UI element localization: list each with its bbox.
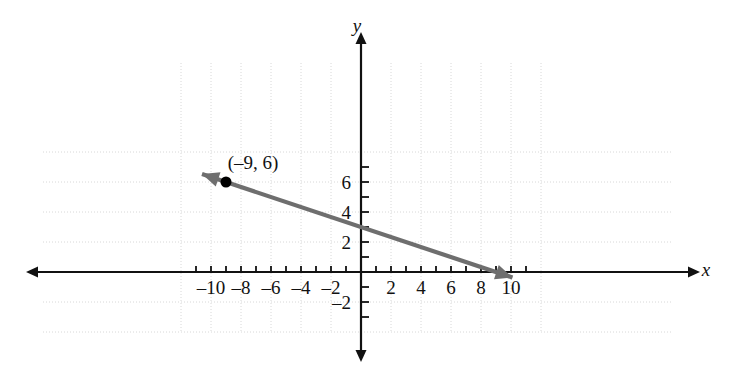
point-coordinate-label: (–9, 6): [228, 152, 279, 174]
data-point-marker: [221, 177, 232, 188]
x-tick-label: –8: [231, 277, 251, 298]
graph-canvas: –10–8–6–4–2246810 246–2 (–9, 6) x y: [0, 0, 730, 371]
x-tick-label: 2: [386, 277, 396, 298]
y-axis-label: y: [351, 15, 362, 36]
x-axis-label: x: [701, 259, 711, 280]
x-tick-label: 6: [446, 277, 456, 298]
x-tick-label: –4: [291, 277, 312, 298]
point-annotations: (–9, 6): [228, 152, 279, 174]
chart-background: [0, 0, 730, 371]
y-tick-label: –2: [331, 292, 351, 313]
x-tick-label: –10: [196, 277, 226, 298]
x-tick-label: 8: [476, 277, 486, 298]
y-tick-label: 6: [342, 172, 352, 193]
y-tick-label: 2: [342, 232, 352, 253]
x-tick-label: 10: [502, 277, 521, 298]
x-tick-label: –6: [261, 277, 281, 298]
x-tick-label: 4: [416, 277, 426, 298]
coordinate-plane-graph: –10–8–6–4–2246810 246–2 (–9, 6) x y: [0, 0, 730, 371]
data-points: [221, 177, 232, 188]
